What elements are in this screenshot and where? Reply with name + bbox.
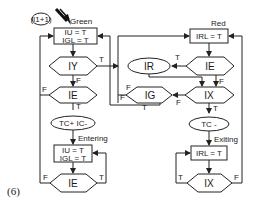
svg-text:(I1+1): (I1+1) (30, 15, 51, 24)
svg-text:F: F (120, 93, 125, 102)
svg-text:F: F (76, 76, 81, 85)
svg-text:F: F (176, 98, 181, 107)
svg-text:IX: IX (204, 178, 214, 189)
state-label-green: Green (70, 17, 92, 26)
svg-text:IRL = T: IRL = T (196, 32, 222, 41)
entry-marker: (I1+1) (30, 13, 51, 25)
svg-text:IR: IR (144, 61, 154, 72)
node-exiting-assign: IRL = T (191, 146, 227, 160)
svg-text:IGL = T: IGL = T (60, 154, 87, 163)
svg-text:T: T (175, 53, 180, 62)
flowchart-diagram: (I1+1) Green IU = T IGL = T IY T F IE F … (0, 0, 263, 212)
svg-text:IE: IE (68, 90, 78, 101)
node-ix-bottom-decision: IX (187, 174, 232, 192)
svg-text:T: T (99, 173, 104, 182)
svg-text:F: F (42, 85, 47, 94)
svg-text:F: F (234, 173, 239, 182)
svg-text:T: T (99, 55, 104, 64)
node-ie-right-decision: IE (186, 57, 234, 75)
node-ix-decision: IX (185, 87, 234, 103)
state-label-entering: Entering (78, 134, 108, 143)
svg-text:IG: IG (145, 90, 156, 101)
svg-text:F: F (219, 77, 224, 86)
state-label-exiting: Exiting (214, 135, 238, 144)
svg-text:T: T (142, 103, 147, 112)
node-ir-action: IR (128, 58, 170, 74)
svg-text:IE: IE (205, 61, 215, 72)
svg-text:TC+ IC-: TC+ IC- (59, 119, 88, 128)
svg-text:F: F (126, 83, 131, 92)
svg-text:IX: IX (204, 90, 214, 101)
node-entering-assign: IU = T IGL = T (54, 145, 92, 163)
svg-text:T: T (213, 104, 218, 113)
state-label-red: Red (211, 19, 226, 28)
node-ie-left-decision: IE (49, 87, 97, 103)
node-red-assign: IRL = T (190, 29, 228, 43)
svg-text:IE: IE (68, 178, 78, 189)
svg-text:T: T (178, 173, 183, 182)
node-iy-decision: IY (49, 57, 97, 75)
svg-text:IRL = T: IRL = T (196, 149, 222, 158)
figure-caption: (6) (7, 185, 20, 198)
node-tc-minus-action: TC - (189, 117, 229, 131)
node-ie-bottom-decision: IE (50, 174, 97, 192)
node-ig-decision: IG (126, 87, 172, 103)
svg-text:IGL = T: IGL = T (62, 36, 89, 45)
svg-text:TC -: TC - (201, 120, 217, 129)
node-tc-ic-action: TC+ IC- (51, 116, 95, 130)
svg-text:IY: IY (68, 61, 78, 72)
svg-text:T: T (76, 102, 81, 111)
node-green-assign: IU = T IGL = T (54, 28, 97, 45)
svg-text:F: F (43, 173, 48, 182)
entry-arrow-icon (56, 9, 71, 25)
